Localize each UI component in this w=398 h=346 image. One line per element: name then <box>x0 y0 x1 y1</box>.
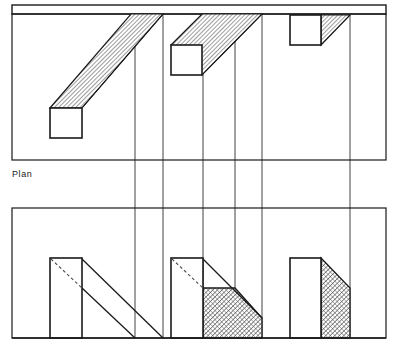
drawing-canvas: Plan <box>0 0 398 346</box>
plan-square-2 <box>171 45 202 75</box>
elevation-rect-2 <box>171 258 203 338</box>
top-band-rect <box>12 5 386 14</box>
elevation-rect-3 <box>290 258 321 338</box>
top-band <box>12 5 386 14</box>
plan-square-1 <box>50 108 82 138</box>
plan-square-3 <box>290 15 321 45</box>
plan-label: Plan <box>12 169 32 179</box>
technical-drawing: Plan <box>0 0 398 346</box>
elevation-rect-1 <box>50 258 82 338</box>
